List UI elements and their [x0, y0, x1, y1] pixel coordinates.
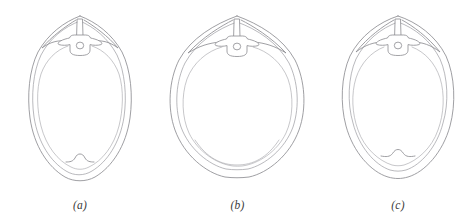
pelvic-inlet-drawing-b — [155, 0, 320, 200]
spinous-process-c — [395, 19, 401, 36]
spinous-process-a — [77, 19, 83, 36]
figure-panel-b: (b) — [155, 0, 320, 217]
vertebral-foramen-b — [233, 43, 240, 50]
pubic-arch-b — [195, 140, 279, 165]
pelvic-inlet-drawing-c — [322, 0, 474, 200]
figure-panel-a: (a) — [0, 0, 160, 217]
iliopectineal-line-a — [38, 46, 123, 169]
pubic-notch-c — [381, 150, 415, 157]
sacral-ala-right-b — [241, 20, 286, 53]
vertebral-foramen-a — [76, 42, 83, 49]
iliopectineal-line-c — [353, 47, 443, 166]
iliopectineal-line-b — [183, 47, 292, 166]
figure-root: (a) (b) (c — [0, 0, 474, 217]
figure-panel-c: (c) — [322, 0, 474, 217]
panel-label-a: (a) — [0, 199, 160, 211]
pubic-notch-a — [66, 154, 94, 162]
sacral-ala-left-b — [188, 20, 233, 53]
panel-label-b: (b) — [155, 199, 320, 211]
spinous-process-b — [234, 19, 240, 37]
vertebral-foramen-c — [394, 42, 401, 49]
panel-label-c: (c) — [322, 199, 474, 211]
pelvic-inlet-drawing-a — [0, 0, 160, 200]
